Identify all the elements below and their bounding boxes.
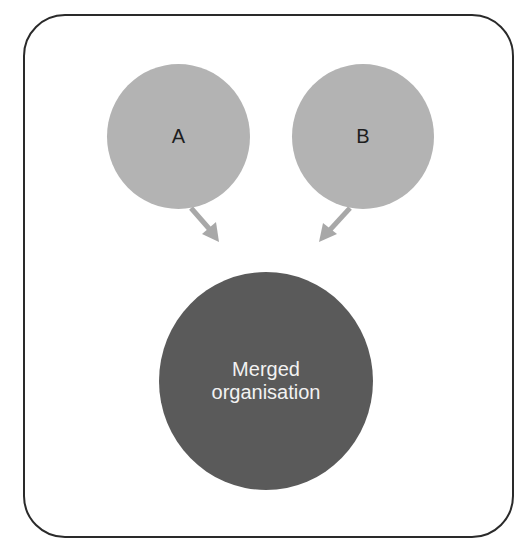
arrow-b-to-merged: [319, 208, 350, 242]
node-b: B: [292, 64, 434, 209]
node-merged-organisation: Merged organisation: [159, 272, 373, 490]
merged-label-line2: organisation: [212, 381, 321, 404]
merged-label-line1: Merged: [212, 358, 321, 381]
node-a: A: [107, 64, 250, 209]
node-a-label: A: [172, 125, 185, 148]
node-b-label: B: [356, 125, 369, 148]
arrow-a-to-merged: [191, 208, 219, 242]
